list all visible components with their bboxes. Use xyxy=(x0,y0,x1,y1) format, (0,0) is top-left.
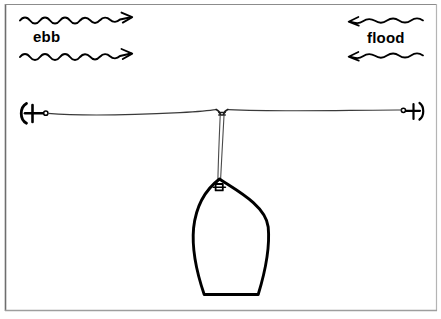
ebb-label: ebb xyxy=(33,29,60,44)
mooring-diagram: ebb flood xyxy=(0,0,441,319)
diagram-canvas xyxy=(0,0,441,319)
flood-label: flood xyxy=(367,30,405,45)
